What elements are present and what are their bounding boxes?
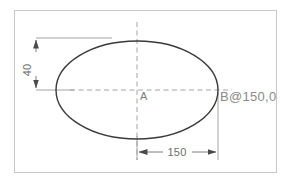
center-point-label-a: A [140, 90, 148, 102]
edge-point-label-b: B@150,0 [220, 89, 277, 104]
horizontal-dimension-label: 150 [168, 146, 187, 158]
technical-drawing-svg: 40 150 A B@150,0 [0, 0, 291, 181]
drawing-canvas: 40 150 A B@150,0 [0, 0, 291, 181]
vertical-dimension-label: 40 [21, 64, 33, 77]
